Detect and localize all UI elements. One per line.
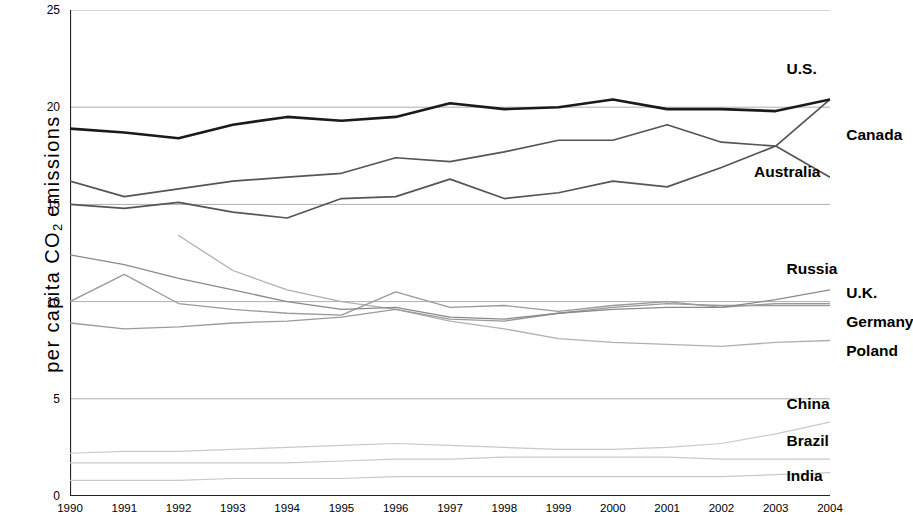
series-line-brazil	[70, 457, 830, 463]
series-line-canada	[70, 125, 830, 197]
x-tick-label: 1997	[425, 502, 475, 514]
series-label-brazil: Brazil	[787, 432, 829, 450]
x-tick-label: 2003	[751, 502, 801, 514]
series-label-china: China	[787, 395, 830, 413]
x-tick-label: 1999	[534, 502, 584, 514]
series-label-canada: Canada	[846, 126, 902, 144]
series-line-poland	[179, 236, 830, 347]
series-label-germany: Germany	[846, 313, 913, 331]
plot-area	[70, 10, 830, 496]
series-label-india: India	[787, 467, 823, 485]
x-tick-label: 1992	[154, 502, 204, 514]
x-tick-label: 1995	[316, 502, 366, 514]
series-line-u-s	[70, 99, 830, 138]
series-line-australia	[70, 99, 830, 218]
y-axis-title: per capita CO2 emissions	[41, 99, 65, 389]
x-tick-label: 2004	[805, 502, 855, 514]
y-axis-title-sub: 2	[50, 224, 65, 231]
x-tick-label: 1996	[371, 502, 421, 514]
series-label-russia: Russia	[787, 260, 838, 278]
series-line-russia	[70, 255, 830, 319]
x-tick-label: 1998	[479, 502, 529, 514]
series-label-u-k: U.K.	[846, 284, 877, 302]
y-tick-label: 25	[30, 3, 60, 17]
y-tick-label: 15	[30, 197, 60, 211]
series-line-u-k	[70, 274, 830, 315]
series-line-china	[70, 422, 830, 453]
y-tick-label: 5	[30, 392, 60, 406]
series-label-australia: Australia	[754, 163, 820, 181]
series-line-india	[70, 473, 830, 481]
x-tick-label: 1993	[208, 502, 258, 514]
x-tick-label: 1994	[262, 502, 312, 514]
y-tick-label: 10	[30, 295, 60, 309]
x-tick-label: 2002	[696, 502, 746, 514]
x-tick-label: 1990	[45, 502, 95, 514]
y-tick-label: 20	[30, 100, 60, 114]
y-tick-label: 0	[30, 489, 60, 503]
x-tick-label: 2001	[642, 502, 692, 514]
series-label-u-s: U.S.	[787, 60, 817, 78]
x-tick-label: 2000	[588, 502, 638, 514]
x-tick-label: 1991	[99, 502, 149, 514]
plot-svg	[70, 10, 830, 496]
series-label-poland: Poland	[846, 342, 898, 360]
